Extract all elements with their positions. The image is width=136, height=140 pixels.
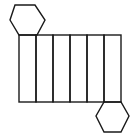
lateral-face (104, 35, 121, 102)
lateral-faces (19, 35, 121, 102)
lateral-face (53, 35, 70, 102)
lateral-face (87, 35, 104, 102)
top-hexagon-face (10, 5, 45, 35)
lateral-face (36, 35, 53, 102)
hexagonal-prism-net (0, 0, 136, 140)
lateral-face (70, 35, 87, 102)
bottom-hexagon-face (96, 102, 129, 132)
lateral-face (19, 35, 36, 102)
